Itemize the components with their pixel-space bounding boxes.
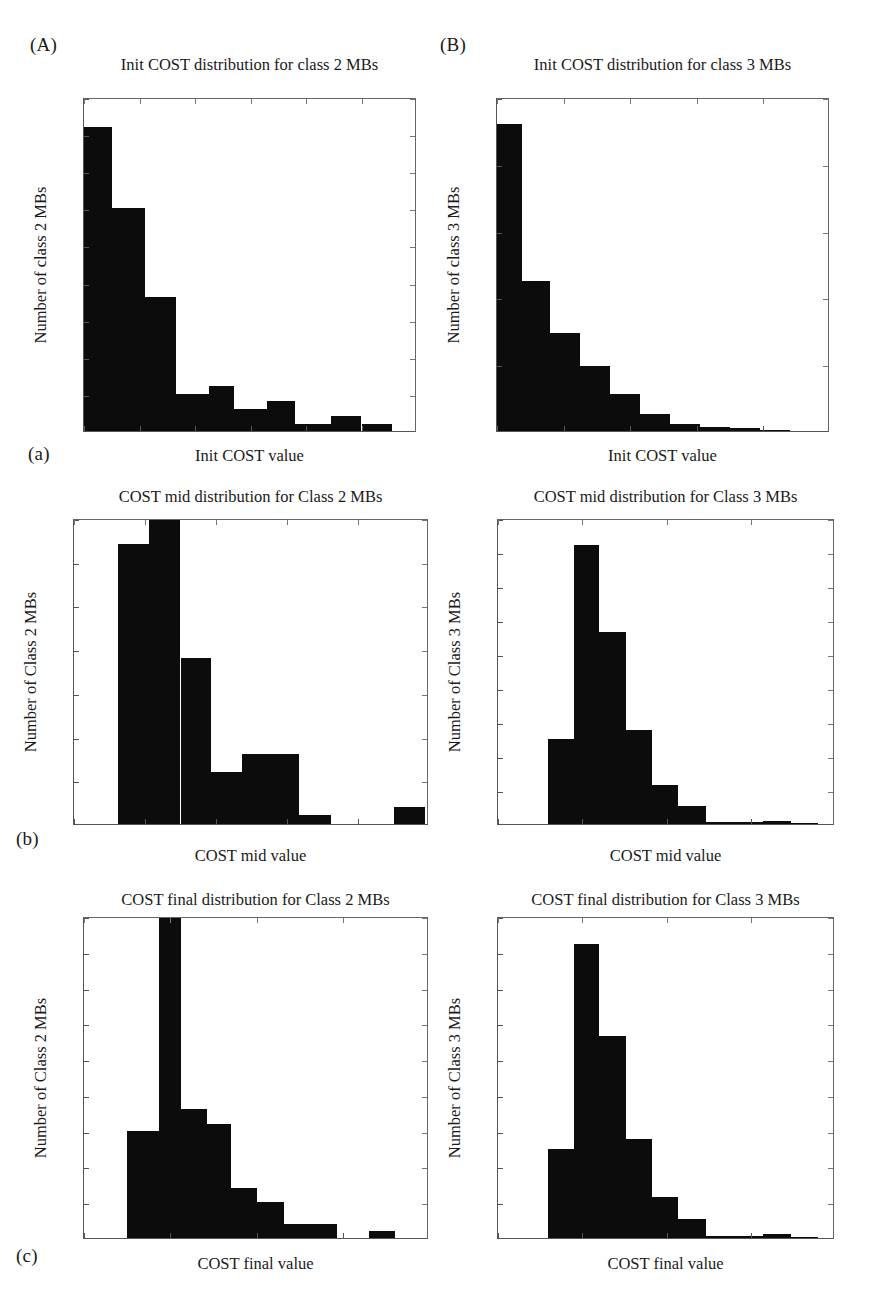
- histogram-bar: [145, 297, 176, 431]
- x-tick: [140, 426, 141, 431]
- y-tick: [498, 1168, 503, 1169]
- histogram-bar: [652, 785, 678, 824]
- y-tick: [84, 322, 89, 323]
- x-tick: [751, 819, 752, 824]
- histogram-bar: [311, 1224, 337, 1238]
- panel-letter-A: (A): [30, 34, 57, 56]
- y-tick: [498, 690, 503, 691]
- y-tick: [498, 1204, 503, 1205]
- chart-title: COST mid distribution for Class 2 MBs: [33, 487, 468, 506]
- y-tick-right: [410, 136, 415, 137]
- histogram-bar: [763, 1234, 791, 1238]
- plot-area: 0510152025303540451000200030004000500060…: [83, 98, 416, 432]
- x-tick: [498, 1233, 499, 1238]
- x-tick: [582, 1233, 583, 1238]
- y-tick-right: [422, 1061, 427, 1062]
- y-tick: [498, 554, 503, 555]
- x-tick: [630, 426, 631, 431]
- y-tick-right: [410, 359, 415, 360]
- y-tick-right: [828, 1168, 833, 1169]
- histogram-bar: [652, 1197, 678, 1238]
- x-tick: [287, 819, 288, 824]
- y-axis-title: Number of Class 3 MBs: [445, 917, 464, 1239]
- y-tick-right: [422, 607, 427, 608]
- y-tick: [497, 366, 502, 367]
- y-tick: [498, 792, 503, 793]
- x-tick-top: [667, 918, 668, 923]
- y-tick: [74, 739, 79, 740]
- histogram-bar: [640, 414, 670, 431]
- histogram-bar: [369, 1231, 395, 1238]
- plot-area: 0501001502002503003504004500100020003000…: [497, 917, 834, 1239]
- histogram-bar: [670, 424, 700, 431]
- bar-series: [84, 99, 415, 431]
- x-tick: [145, 819, 146, 824]
- histogram-bar: [181, 658, 212, 824]
- plot-area: 0501001502002503003504004500100020003000…: [497, 519, 834, 825]
- y-tick: [84, 1168, 89, 1169]
- x-tick-top: [306, 99, 307, 104]
- histogram-bar: [574, 944, 599, 1238]
- bar-series: [74, 520, 427, 824]
- y-tick-right: [422, 651, 427, 652]
- x-axis-title: COST final value: [83, 1254, 428, 1273]
- plot-area: 05101520253035404501000200030004000: [83, 917, 428, 1239]
- x-tick-top: [630, 99, 631, 104]
- y-tick-right: [410, 173, 415, 174]
- y-tick: [498, 520, 503, 521]
- histogram-bar: [678, 1219, 706, 1238]
- y-tick-right: [422, 782, 427, 783]
- plot-area: 05101520253035010002000300040005000: [73, 519, 428, 825]
- y-tick: [74, 607, 79, 608]
- chart-title: Init COST distribution for class 3 MBs: [456, 55, 869, 74]
- histogram-bar: [284, 1224, 311, 1238]
- x-tick-top: [145, 520, 146, 525]
- histogram-bar: [231, 1188, 258, 1238]
- histogram-bar: [522, 281, 550, 431]
- histogram-bar: [149, 519, 180, 824]
- y-tick-right: [422, 564, 427, 565]
- y-tick-right: [823, 299, 828, 300]
- y-tick: [498, 1097, 503, 1098]
- y-tick: [497, 233, 502, 234]
- y-tick: [84, 990, 89, 991]
- y-tick: [498, 990, 503, 991]
- y-tick: [498, 1133, 503, 1134]
- y-tick: [497, 299, 502, 300]
- y-tick-right: [422, 695, 427, 696]
- y-tick-right: [828, 1133, 833, 1134]
- y-tick-right: [422, 1168, 427, 1169]
- figure-page: (A) (B) (a) (b) (c) Init COST distributi…: [0, 0, 881, 1309]
- y-tick-right: [410, 210, 415, 211]
- y-tick-right: [410, 99, 415, 100]
- x-tick: [84, 1233, 85, 1238]
- histogram-bar: [791, 823, 818, 824]
- x-tick-top: [140, 99, 141, 104]
- x-tick: [257, 1233, 258, 1238]
- y-tick-right: [422, 1133, 427, 1134]
- y-tick: [498, 656, 503, 657]
- histogram-bar: [176, 394, 209, 431]
- x-tick-top: [497, 99, 498, 104]
- histogram-bar: [118, 544, 149, 824]
- histogram-bar: [599, 1036, 626, 1238]
- x-tick: [84, 426, 85, 431]
- histogram-bar: [730, 428, 760, 431]
- y-axis-title: Number of Class 2 MBs: [31, 917, 50, 1239]
- x-tick: [195, 426, 196, 431]
- y-tick-right: [828, 1204, 833, 1205]
- x-tick: [306, 426, 307, 431]
- y-tick-right: [422, 739, 427, 740]
- x-tick: [74, 819, 75, 824]
- histogram-bar: [700, 427, 730, 431]
- chart-init-class2: Init COST distribution for class 2 MBs05…: [0, 0, 881, 1309]
- y-tick-right: [828, 792, 833, 793]
- x-tick-top: [498, 918, 499, 923]
- y-tick-right: [823, 99, 828, 100]
- x-tick-top: [751, 520, 752, 525]
- histogram-bar: [678, 806, 706, 824]
- x-tick-top: [343, 918, 344, 923]
- y-tick: [74, 695, 79, 696]
- y-tick-right: [828, 918, 833, 919]
- y-tick-right: [828, 724, 833, 725]
